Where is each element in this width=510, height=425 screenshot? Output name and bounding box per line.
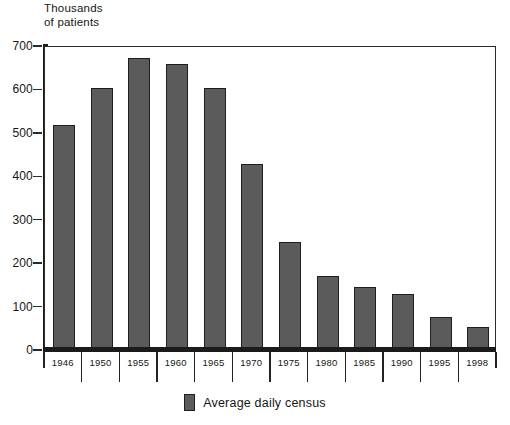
y-axis-tick — [33, 349, 42, 351]
y-axis-tick — [33, 45, 42, 47]
bar-1960 — [166, 64, 188, 351]
x-axis-tick-label-1960: 1960 — [165, 357, 187, 368]
plot-area — [44, 46, 496, 350]
y-axis-tick-label: 0 — [1, 343, 33, 357]
y-axis-tick — [33, 132, 42, 134]
x-axis-tick-label-1965: 1965 — [203, 357, 225, 368]
bar-1975 — [279, 242, 301, 351]
y-axis-tick — [33, 89, 42, 91]
x-axis-separator — [458, 352, 459, 382]
x-axis-separator — [345, 352, 346, 382]
x-axis-separator — [232, 352, 233, 382]
y-axis-tick-label: 200 — [1, 256, 33, 270]
y-axis-label-group: 0100200300400500600700 — [0, 0, 33, 425]
legend-swatch-average-daily-census — [184, 394, 195, 411]
bar-1990 — [392, 294, 414, 351]
x-axis-tick-label-1980: 1980 — [316, 357, 338, 368]
x-axis-separator — [269, 352, 270, 382]
y-axis-tick-label: 600 — [1, 82, 33, 96]
y-axis-tick-label: 400 — [1, 169, 33, 183]
x-axis-tick-label-1998: 1998 — [466, 357, 488, 368]
bar-1980 — [317, 276, 339, 351]
x-axis-tick-label-1955: 1955 — [127, 357, 149, 368]
y-axis-tick — [33, 306, 42, 308]
y-axis-tick-label: 300 — [1, 213, 33, 227]
y-axis-tick — [33, 176, 42, 178]
chart-legend: Average daily census — [0, 394, 510, 411]
y-axis-tick — [33, 219, 42, 221]
x-axis-separator — [81, 352, 82, 382]
x-axis-tick-label-1995: 1995 — [429, 357, 451, 368]
x-axis-separator — [43, 352, 44, 368]
bar-chart-figure: Thousands of patients 010020030040050060… — [0, 0, 510, 425]
y-axis-tick-label: 700 — [1, 39, 33, 53]
bar-1970 — [241, 164, 263, 351]
x-axis-tick-label-1970: 1970 — [240, 357, 262, 368]
bar-1965 — [204, 88, 226, 351]
x-axis-tick-label-1946: 1946 — [52, 357, 74, 368]
x-axis-separator — [307, 352, 308, 382]
bar-1985 — [354, 287, 376, 351]
x-axis-separator — [194, 352, 195, 382]
x-axis-tick-label-1950: 1950 — [90, 357, 112, 368]
x-axis-tick-label-1975: 1975 — [278, 357, 300, 368]
bar-1955 — [128, 58, 150, 351]
x-axis-tick-label-1985: 1985 — [353, 357, 375, 368]
y-axis-tick — [33, 262, 42, 264]
x-axis-tick-label-1990: 1990 — [391, 357, 413, 368]
bar-1946 — [53, 125, 75, 351]
y-axis-title: Thousands of patients — [44, 2, 103, 29]
x-axis-separator — [119, 352, 120, 382]
bar-1950 — [91, 88, 113, 351]
x-axis-separator — [382, 352, 383, 382]
y-axis-tick-label: 100 — [1, 300, 33, 314]
bar-1995 — [430, 317, 452, 351]
y-axis-tick-label: 500 — [1, 126, 33, 140]
x-axis-separator — [495, 352, 496, 368]
legend-label-average-daily-census: Average daily census — [203, 396, 326, 410]
x-axis-separator — [156, 352, 157, 382]
x-axis-separator — [420, 352, 421, 382]
